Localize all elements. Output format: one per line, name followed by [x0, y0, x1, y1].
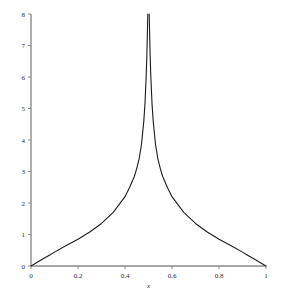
- y-tick-label: 6: [22, 74, 26, 82]
- y-tick-label: 3: [22, 168, 26, 176]
- x-tick-label: 0.6: [168, 272, 177, 280]
- y-tick-labels: 012345678: [22, 11, 26, 271]
- y-tick-label: 5: [22, 105, 26, 113]
- x-tick-label: 0.8: [215, 272, 224, 280]
- y-tick-label: 7: [22, 42, 26, 50]
- plot-canvas: 012345678 00.20.40.60.81 x: [0, 0, 289, 296]
- y-tick-label: 1: [22, 231, 26, 239]
- x-tick-label: 0: [29, 272, 33, 280]
- y-tick-label: 4: [22, 137, 26, 145]
- y-tick-label: 0: [22, 263, 26, 271]
- chart-figure: 012345678 00.20.40.60.81 x: [0, 0, 289, 296]
- y-tick-label: 8: [22, 11, 26, 19]
- x-tick-label: 0.4: [121, 272, 130, 280]
- plot-background: [0, 0, 289, 296]
- x-tick-label: 0.2: [74, 272, 83, 280]
- x-tick-label: 1: [264, 272, 268, 280]
- y-tick-label: 2: [22, 200, 26, 208]
